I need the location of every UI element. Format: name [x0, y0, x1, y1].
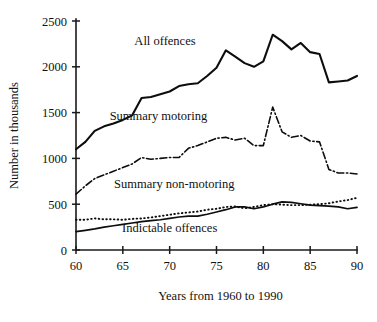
x-tick-label-70: 70 [163, 259, 176, 273]
x-tick-label-85: 85 [304, 259, 317, 273]
x-tick-label-75: 75 [210, 259, 223, 273]
y-axis-ticks: 05001000150020002500 [42, 15, 80, 258]
y-tick-label-2000: 2000 [42, 60, 67, 74]
y-tick-label-0: 0 [61, 244, 67, 258]
series-inline-labels: All offencesSummary motoringSummary non-… [110, 34, 236, 234]
series-label-summary-non-motoring: Summary non-motoring [114, 177, 235, 191]
y-axis-title: Number in thousands [7, 82, 21, 189]
offences-line-chart: 05001000150020002500 60657075808590 All … [0, 0, 377, 322]
x-tick-label-65: 65 [117, 259, 130, 273]
chart-figure: 05001000150020002500 60657075808590 All … [0, 0, 377, 322]
x-axis-title: Years from 1960 to 1990 [158, 289, 282, 303]
y-tick-label-500: 500 [48, 198, 67, 212]
x-tick-label-60: 60 [70, 259, 83, 273]
x-tick-label-90: 90 [351, 259, 364, 273]
series-label-all-offences: All offences [134, 34, 195, 48]
y-tick-label-1500: 1500 [42, 106, 67, 120]
y-tick-label-2500: 2500 [42, 15, 67, 29]
data-series-group [76, 35, 357, 232]
series-line-all-offences [76, 35, 357, 150]
x-tick-label-80: 80 [257, 259, 270, 273]
series-label-indictable-offences: Indictable offences [122, 221, 217, 235]
y-tick-label-1000: 1000 [42, 152, 67, 166]
series-line-summary-non-motoring [76, 198, 357, 220]
series-label-summary-motoring: Summary motoring [110, 109, 208, 123]
